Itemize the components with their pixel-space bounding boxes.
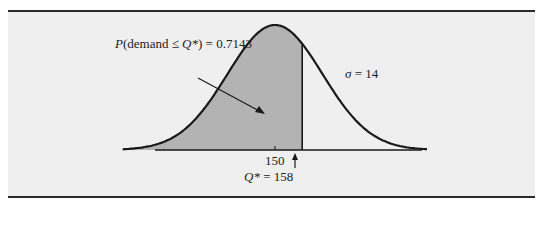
- prob-suffix: ) = 0.7143: [198, 36, 252, 51]
- prob-p: P: [115, 36, 123, 51]
- q-star-label: Q* = 158: [244, 169, 293, 185]
- qstar-var: Q*: [244, 169, 260, 184]
- sigma-value: = 14: [351, 66, 378, 81]
- mean-tick-label: 150: [265, 153, 285, 169]
- probability-label: P(demand ≤ Q*) = 0.7143: [115, 36, 252, 52]
- sigma-label: σ = 14: [345, 66, 378, 82]
- prob-var: Q*: [182, 36, 198, 51]
- qstar-value: = 158: [260, 169, 293, 184]
- q-star-arrowhead: [292, 153, 298, 160]
- prob-mid: (demand ≤: [123, 36, 182, 51]
